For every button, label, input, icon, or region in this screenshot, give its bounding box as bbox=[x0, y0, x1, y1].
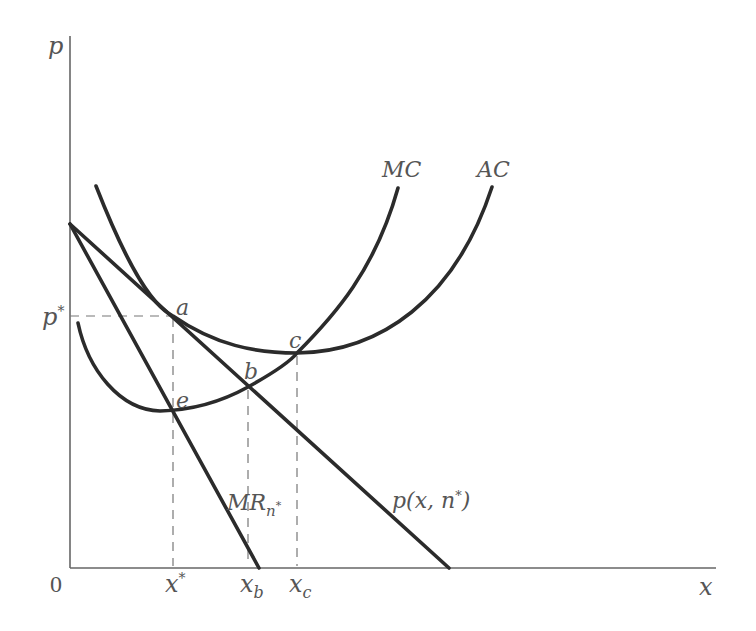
mr-label-base: MR bbox=[226, 490, 266, 515]
point-c-label: c bbox=[289, 328, 301, 353]
mr-label-sub: n bbox=[266, 502, 276, 520]
xb-label: xb bbox=[240, 570, 264, 602]
svg-text:MRn*: MRn* bbox=[226, 490, 282, 520]
x-tick-labels: x* xb xc bbox=[165, 570, 312, 602]
reference-lines bbox=[70, 316, 297, 566]
demand-curve bbox=[70, 224, 449, 568]
demand-label: p(x, n*) bbox=[392, 488, 470, 513]
svg-text:p*: p* bbox=[42, 303, 64, 331]
x-axis-label: x bbox=[699, 573, 713, 601]
x-star-label: x* bbox=[165, 570, 186, 598]
xc-label: xc bbox=[289, 570, 312, 602]
demand-label-close: ) bbox=[461, 488, 471, 513]
cost-revenue-diagram: p x 0 MC AC MRn* p(x, n*) a b c e bbox=[0, 0, 756, 631]
mr-label: MRn* bbox=[226, 490, 282, 520]
y-axis-label: p bbox=[48, 32, 63, 60]
point-a-label: a bbox=[176, 295, 189, 320]
mc-label: MC bbox=[381, 157, 422, 182]
svg-text:p(x, n*): p(x, n*) bbox=[392, 488, 470, 513]
point-b-label: b bbox=[244, 359, 258, 384]
p-star-base: p bbox=[42, 303, 57, 331]
point-e-label: e bbox=[176, 388, 189, 413]
ac-label: AC bbox=[475, 157, 510, 182]
demand-label-main: p(x, n bbox=[392, 488, 455, 513]
origin-label: 0 bbox=[50, 571, 62, 597]
axes: p x 0 bbox=[48, 32, 716, 601]
price-label: p* bbox=[42, 303, 64, 331]
mr-label-subsup: * bbox=[276, 499, 282, 512]
p-star-sup: * bbox=[57, 303, 64, 319]
